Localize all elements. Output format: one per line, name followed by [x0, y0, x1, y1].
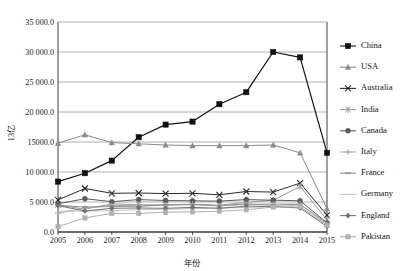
legend-item-label: France — [361, 167, 385, 177]
data-point — [244, 197, 249, 202]
data-point — [163, 122, 168, 127]
legend-item-england[interactable]: England — [340, 210, 390, 220]
data-point — [324, 150, 329, 155]
legend-item-pakistan[interactable]: Pakistan — [340, 231, 391, 241]
legend-item-label: USA — [361, 61, 379, 71]
line-chart-canvas: 0.05 000.010 000.015000.020 000.025 000.… — [0, 0, 420, 271]
data-point — [190, 210, 194, 214]
x-tick-label: 2011 — [211, 236, 227, 245]
legend-marker-icon — [346, 128, 351, 133]
data-point — [190, 119, 195, 124]
data-point — [136, 135, 141, 140]
data-point — [110, 211, 114, 215]
data-point — [325, 223, 329, 227]
data-point — [55, 179, 60, 184]
legend-item-label: Australia — [361, 82, 393, 92]
x-tick-label: 2008 — [131, 236, 147, 245]
legend-item-label: China — [361, 40, 382, 50]
chart-legend: ChinaUSAAustraliaIndiaCanadaItalyFranceG… — [336, 33, 418, 241]
data-point — [136, 197, 141, 202]
legend-item-label: Italy — [361, 146, 377, 156]
legend-item-italy[interactable]: Italy — [340, 146, 377, 156]
data-point — [83, 216, 87, 220]
data-point — [271, 205, 275, 209]
data-point — [271, 49, 276, 54]
x-tick-label: 2013 — [265, 236, 281, 245]
data-point — [298, 205, 302, 209]
legend-marker-icon — [345, 149, 351, 155]
y-tick-label: 10 000.0 — [25, 168, 54, 177]
x-tick-label: 2005 — [50, 236, 66, 245]
x-tick-label: 2014 — [292, 236, 308, 245]
legend-item-india[interactable]: India — [340, 104, 379, 114]
data-point — [217, 209, 221, 213]
chart-figure: 0.05 000.010 000.015000.020 000.025 000.… — [0, 0, 420, 271]
series-china — [55, 49, 329, 184]
data-point — [217, 102, 222, 107]
legend-item-label: Germany — [361, 188, 394, 198]
data-point — [244, 208, 248, 212]
legend-item-germany[interactable]: Germany — [340, 188, 394, 198]
legend-item-label: England — [361, 210, 390, 220]
legend-item-canada[interactable]: Canada — [340, 125, 387, 135]
data-point — [297, 183, 303, 189]
x-tick-label: 2012 — [238, 236, 254, 245]
x-tick-label: 2009 — [157, 236, 173, 245]
y-tick-label: 20 000.0 — [25, 108, 54, 117]
legend-item-label: Pakistan — [361, 231, 391, 241]
legend-item-usa[interactable]: USA — [340, 61, 379, 71]
data-point — [163, 210, 167, 214]
y-tick-label: 5 000.0 — [29, 198, 54, 207]
legend-marker-icon — [345, 43, 350, 48]
data-point — [82, 171, 87, 176]
data-point — [244, 90, 249, 95]
legend-marker-icon — [346, 235, 350, 239]
legend-item-label: Canada — [361, 125, 387, 135]
y-tick-label: 30 000.0 — [25, 48, 54, 57]
x-axis-tick-labels: 2005200620072008200920102011201220132014… — [50, 236, 335, 245]
y-tick-label: 25 000.0 — [25, 78, 54, 87]
legend-marker-icon — [346, 213, 351, 218]
x-tick-label: 2007 — [104, 236, 120, 245]
data-point — [137, 211, 141, 215]
series-line — [58, 52, 327, 182]
legend-item-australia[interactable]: Australia — [340, 82, 393, 92]
data-point — [82, 196, 87, 201]
data-point — [56, 224, 60, 228]
x-axis-title: 年份 — [184, 258, 201, 268]
y-tick-label: 15000.0 — [27, 138, 54, 147]
y-axis-title: 13亿 — [6, 125, 16, 141]
legend-item-france[interactable]: France — [340, 167, 385, 177]
x-tick-label: 2006 — [77, 236, 93, 245]
x-tick-label: 2015 — [319, 236, 335, 245]
data-point — [109, 158, 114, 163]
legend-item-china[interactable]: China — [340, 40, 382, 50]
legend-item-label: India — [361, 104, 379, 114]
x-tick-label: 2010 — [184, 236, 200, 245]
y-axis-tick-labels: 0.05 000.010 000.015000.020 000.025 000.… — [25, 18, 54, 237]
data-point — [217, 199, 222, 204]
data-point — [298, 55, 303, 60]
data-point — [82, 132, 87, 137]
y-tick-label: 35 000.0 — [25, 18, 54, 27]
data-point — [324, 206, 329, 211]
